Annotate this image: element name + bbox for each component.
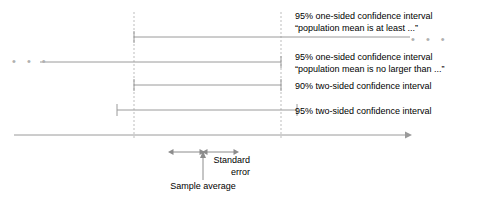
label-one-sided-no-larger-than-line2: “population mean is no larger than ...” [295, 64, 445, 75]
ellipsis-right-icon: • • • [411, 34, 449, 45]
ellipsis-left-icon: • • • [12, 56, 50, 67]
interval-two-sided-90 [134, 79, 281, 91]
interval-two-sided-95 [117, 104, 297, 116]
label-standard-error-line2: error [175, 167, 250, 178]
label-one-sided-at-least-line1: 95% one-sided confidence interval [295, 11, 433, 22]
label-standard-error-line1: Standard [175, 155, 250, 166]
label-one-sided-no-larger-than-line1: 95% one-sided confidence interval [295, 52, 433, 63]
interval-one-sided-no-larger-than [40, 56, 281, 68]
confidence-interval-diagram: • • • • • • 95% one-sided confidence int… [0, 0, 486, 202]
label-sample-average: Sample average [143, 181, 263, 192]
x-axis [14, 132, 412, 139]
label-one-sided-at-least-line2: “population mean is at least ...” [295, 23, 418, 34]
label-two-sided-95: 95% two-sided confidence interval [295, 106, 432, 117]
label-two-sided-90: 90% two-sided confidence interval [295, 81, 432, 92]
